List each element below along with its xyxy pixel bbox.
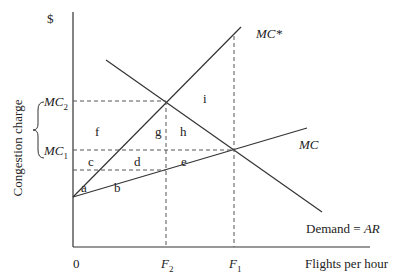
f1-tick-label: F1 <box>229 257 241 274</box>
mc-star-line <box>73 27 241 197</box>
region-i: i <box>203 92 207 105</box>
y-unit-label: $ <box>47 12 54 25</box>
region-h: h <box>180 125 187 138</box>
demand-label: Demand = AR <box>306 222 380 235</box>
region-g: g <box>155 125 162 138</box>
mc-label: MC <box>299 138 319 151</box>
origin-label: 0 <box>73 257 80 270</box>
region-b: b <box>114 181 121 194</box>
y-axis-label: Congestion charge <box>10 88 26 208</box>
mc1-tick-label: MC1 <box>44 144 68 161</box>
f2-tick-label: F2 <box>161 257 173 274</box>
x-axis-label: Flights per hour <box>305 257 388 270</box>
demand-line <box>106 60 322 212</box>
region-a: a <box>81 181 87 194</box>
mc-line <box>73 128 307 197</box>
region-c: c <box>88 155 94 168</box>
mc2-tick-label: MC2 <box>44 95 68 112</box>
brace-icon <box>33 102 44 158</box>
region-d: d <box>134 155 141 168</box>
mc-star-label: MC* <box>256 27 282 40</box>
region-e: e <box>181 155 187 168</box>
region-f: f <box>95 125 99 138</box>
diagram-canvas <box>0 0 404 279</box>
congestion-pricing-diagram: $ Congestion charge MC2 MC1 0 F2 F1 Flig… <box>0 0 404 279</box>
